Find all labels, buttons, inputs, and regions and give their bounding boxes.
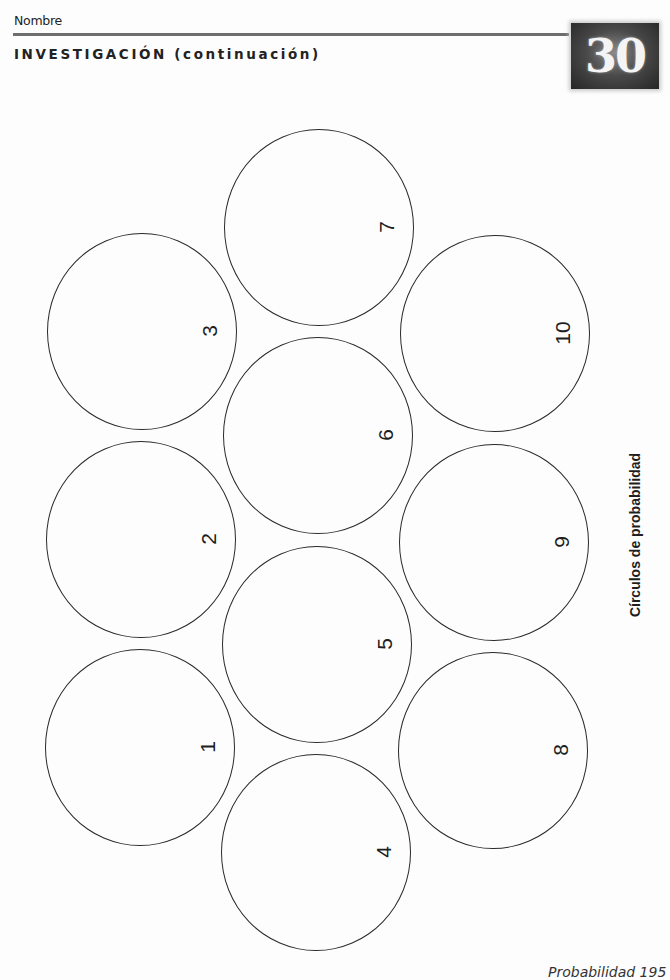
section-title: INVESTIGACIÓN (continuación)	[14, 46, 321, 62]
circle-number-label: 1	[196, 727, 220, 767]
circle-number-label: 9	[550, 522, 574, 562]
page-footer: Probabilidad 195	[548, 964, 666, 980]
lesson-number-badge: 30	[571, 23, 659, 89]
circle-number-label: 7	[375, 207, 399, 247]
circle-number-label: 8	[549, 730, 573, 770]
circle-number-label: 3	[198, 311, 222, 351]
name-field-label: Nombre	[14, 13, 62, 28]
circle-number-label: 6	[374, 415, 398, 455]
lesson-number: 30	[585, 29, 645, 83]
circle-number-label: 5	[373, 624, 397, 664]
diagram-caption: Círculos de probabilidad	[625, 440, 645, 630]
circle-number-label: 4	[372, 832, 396, 872]
circle-number-label: 2	[197, 519, 221, 559]
circle-number-label: 10	[551, 313, 575, 353]
name-write-line[interactable]	[13, 33, 569, 36]
